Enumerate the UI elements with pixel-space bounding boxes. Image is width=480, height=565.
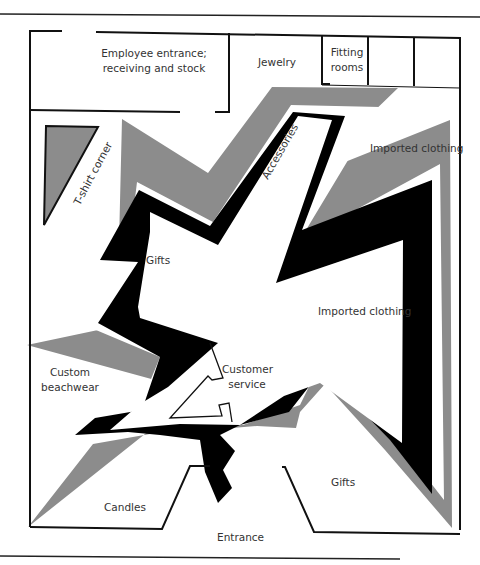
label-custom-beachwear: Custom beachwear [40, 365, 100, 395]
customer-service-line1: Customer [222, 362, 272, 377]
label-jewelry: Jewelry [258, 55, 296, 70]
fitting-line2: rooms [330, 60, 364, 75]
beachwear-line2: beachwear [40, 380, 100, 395]
customer-service-line2: service [222, 377, 272, 392]
label-imported-clothing-mid: Imported clothing [318, 304, 411, 319]
top-rule [0, 14, 480, 17]
employee-room-wall [30, 110, 180, 112]
fitting-line1: Fitting [330, 45, 364, 60]
label-gifts-center: Gifts [146, 253, 170, 268]
label-entrance: Entrance [217, 530, 264, 545]
outer-wall-left [30, 31, 62, 527]
fitting-bottom [322, 85, 460, 88]
label-fitting-rooms: Fitting rooms [330, 45, 364, 75]
beachwear-line1: Custom [40, 365, 100, 380]
label-candles: Candles [104, 500, 146, 515]
fitting-room-walls [322, 36, 330, 84]
floor-plan [0, 0, 480, 565]
label-customer-service: Customer service [222, 362, 272, 392]
label-employee-entrance: Employee entrance; receiving and stock [92, 46, 216, 76]
bottom-rule [0, 556, 400, 559]
label-imported-clothing-top: Imported clothing [370, 141, 463, 156]
employee-line2: receiving and stock [92, 61, 216, 76]
label-gifts-bottom: Gifts [331, 475, 355, 490]
employee-line1: Employee entrance; [92, 46, 216, 61]
employee-room-wall-right [215, 33, 229, 112]
